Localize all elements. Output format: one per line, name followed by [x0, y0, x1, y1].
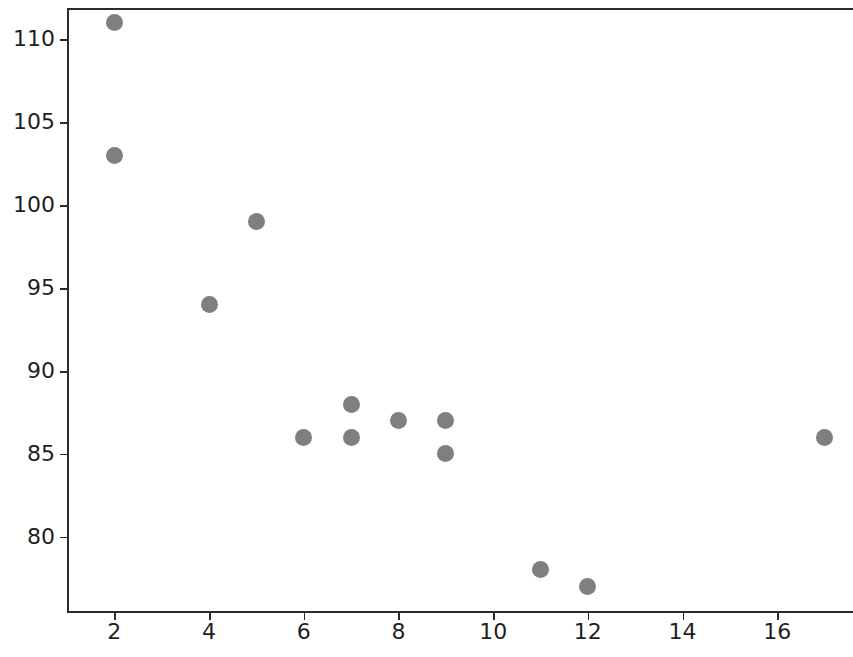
- plot-axes-area: [67, 8, 853, 613]
- x-tick-label-12: 12: [574, 621, 602, 643]
- x-axis-tick-labels: 246810121416: [67, 621, 853, 657]
- x-tick-label-10: 10: [479, 621, 507, 643]
- y-tick-label-105: 105: [13, 111, 55, 133]
- y-tick-80: [60, 537, 67, 539]
- y-tick-label-85: 85: [27, 443, 55, 465]
- scatter-point: [343, 429, 360, 446]
- axis-spine-left: [67, 8, 69, 613]
- y-axis-tick-labels: 80859095100105110: [0, 8, 55, 613]
- x-tick-label-8: 8: [391, 621, 405, 643]
- scatter-point: [106, 147, 123, 164]
- scatter-point: [816, 429, 833, 446]
- y-tick-85: [60, 454, 67, 456]
- scatter-point: [201, 296, 218, 313]
- x-tick-label-4: 4: [202, 621, 216, 643]
- y-tick-label-80: 80: [27, 526, 55, 548]
- y-tick-100: [60, 205, 67, 207]
- scatter-point: [437, 412, 454, 429]
- y-tick-label-95: 95: [27, 277, 55, 299]
- scatter-point: [343, 396, 360, 413]
- x-tick-label-14: 14: [669, 621, 697, 643]
- y-tick-label-90: 90: [27, 360, 55, 382]
- scatter-point: [437, 445, 454, 462]
- y-tick-110: [60, 39, 67, 41]
- y-tick-label-110: 110: [13, 28, 55, 50]
- axis-spine-top: [67, 8, 853, 10]
- x-tick-label-6: 6: [297, 621, 311, 643]
- scatter-point: [579, 578, 596, 595]
- scatter-point: [390, 412, 407, 429]
- scatter-point: [295, 429, 312, 446]
- scatter-point: [532, 561, 549, 578]
- axis-spine-bottom: [67, 611, 853, 613]
- scatter-point: [248, 213, 265, 230]
- y-tick-95: [60, 288, 67, 290]
- x-tick-label-2: 2: [107, 621, 121, 643]
- y-tick-90: [60, 371, 67, 373]
- y-tick-105: [60, 122, 67, 124]
- chart-figure: 80859095100105110 246810121416: [0, 0, 853, 657]
- scatter-point: [106, 14, 123, 31]
- x-tick-label-16: 16: [763, 621, 791, 643]
- y-tick-label-100: 100: [13, 194, 55, 216]
